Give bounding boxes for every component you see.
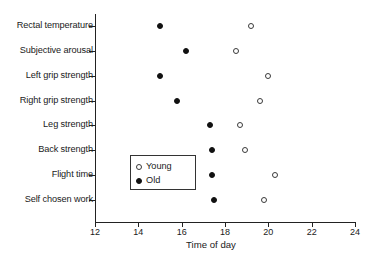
x-axis-tick-label: 24 [350,228,360,237]
y-axis-category-label: Rectal temperature [17,21,93,30]
x-axis-tick-label: 12 [90,228,100,237]
y-axis-category-label: Subjective arousal [20,46,93,55]
data-point-young [248,23,254,29]
y-axis-category-label: Left grip strength [26,71,93,80]
data-point-old [207,122,213,128]
x-axis-tick-label: 18 [220,228,230,237]
data-point-old [183,48,189,54]
x-axis-tick-label: 22 [307,228,317,237]
legend-label-young: Young [146,162,172,171]
x-axis-tick-label: 16 [177,228,187,237]
x-axis-tick-label: 20 [263,228,273,237]
data-point-old [209,172,215,178]
y-axis-line [95,14,96,222]
y-axis-category-label: Right grip strength [20,96,93,105]
legend-entry-young: Young [136,162,172,171]
data-point-young [257,98,263,104]
data-point-young [261,197,267,203]
data-point-young [233,48,239,54]
data-point-young [237,122,243,128]
filled-circle-icon [136,178,142,184]
data-point-old [157,73,163,79]
y-axis-category-label: Self chosen work [25,195,93,204]
x-axis-tick-label: 14 [133,228,143,237]
data-point-young [242,147,248,153]
y-axis-category-label: Back strength [38,146,93,155]
data-point-old [209,147,215,153]
x-axis-title: Time of day [0,240,374,250]
legend: Young Old [130,155,196,190]
x-axis-title-text: Time of day [186,239,236,250]
chart-container: Rectal temperatureSubjective arousalLeft… [0,0,374,256]
legend-entry-old: Old [136,176,160,185]
data-point-young [265,73,271,79]
open-circle-icon [136,164,142,170]
legend-label-old: Old [146,176,160,185]
data-point-old [157,23,163,29]
data-point-old [211,197,217,203]
data-point-old [174,98,180,104]
y-axis-category-label: Leg strength [43,121,93,130]
y-axis-category-label: Flight time [52,170,93,179]
data-point-young [272,172,278,178]
